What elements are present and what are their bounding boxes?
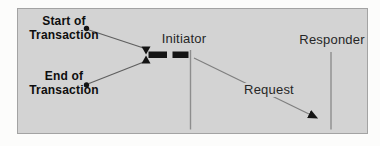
request-label: Request	[229, 83, 309, 97]
transaction-bar-dash	[173, 52, 189, 59]
end-label-line2: Transaction	[18, 83, 110, 97]
end-label-line1: End of	[18, 69, 110, 83]
start-label-line2: Transaction	[18, 28, 110, 42]
initiator-label: Initiator	[144, 32, 224, 46]
end-of-transaction-label: End of Transaction	[18, 69, 110, 97]
transaction-diagram: Start of Transaction End of Transaction …	[0, 0, 380, 146]
responder-label: Responder	[292, 33, 372, 47]
start-label-line1: Start of	[18, 14, 110, 28]
transaction-bar-dash	[149, 52, 168, 59]
start-of-transaction-label: Start of Transaction	[18, 14, 110, 42]
request-label-text: Request	[241, 83, 297, 97]
